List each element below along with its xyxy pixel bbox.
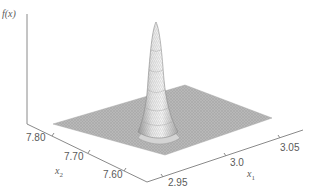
x1-axis-label-sub: 1 xyxy=(251,174,255,182)
x2-tick-label: 7.70 xyxy=(64,152,83,162)
x2-tick-label: 7.60 xyxy=(103,170,122,180)
x1-tick-label: 3.05 xyxy=(280,143,299,153)
z-axis-label: f(x) xyxy=(2,9,16,19)
x2-axis-label-sub: 2 xyxy=(59,171,63,179)
x1-tick-label: 2.95 xyxy=(168,178,187,188)
x1-tick-label: 3.0 xyxy=(230,158,244,168)
surface-plot xyxy=(0,0,311,193)
peak-mesh-lines xyxy=(138,22,178,138)
z-axis-label-text: f(x) xyxy=(2,8,16,19)
x2-tick-label: 7.80 xyxy=(26,133,45,143)
x2-axis-label: x2 xyxy=(55,166,63,179)
x1-axis-label: x1 xyxy=(247,169,255,182)
